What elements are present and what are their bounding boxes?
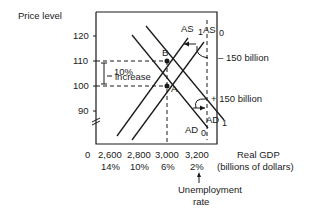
ad-as-diagram: Price level 120 110 100 90 10% increase … xyxy=(0,0,316,213)
x-axis-title: Real GDP xyxy=(237,149,280,160)
as-shift-label: – 150 billion xyxy=(218,52,269,63)
y-tick-90: 90 xyxy=(78,105,89,116)
unemp-tick-6: 6% xyxy=(161,161,175,172)
y-tick-100: 100 xyxy=(73,80,89,91)
as1-curve xyxy=(117,38,188,136)
x-axis-subtitle: (billions of dollars) xyxy=(217,161,294,172)
point-b-label: B xyxy=(162,47,168,58)
as0-subscript: 0 xyxy=(219,28,224,38)
as1-label: AS xyxy=(181,23,194,34)
unemp-tick-10: 10% xyxy=(130,161,150,172)
x-origin-label: 0 xyxy=(85,149,90,160)
increase-word-label: increase xyxy=(115,71,151,82)
unemployment-label-line1: Unemployment xyxy=(178,184,242,195)
y-axis-title: Price level xyxy=(18,10,62,21)
unemp-tick-14: 14% xyxy=(101,161,121,172)
ad-shift-label: + 150 billion xyxy=(211,93,262,104)
ad1-subscript: 1 xyxy=(222,118,227,128)
increase-bracket xyxy=(101,63,112,84)
ad1-label: AD xyxy=(206,114,219,125)
point-a-marker xyxy=(165,84,170,89)
as0-label: AS xyxy=(203,24,216,35)
y-tick-110: 110 xyxy=(73,55,88,66)
ad0-subscript: 0 xyxy=(201,128,206,138)
x-tick-3000: 3,000 xyxy=(155,149,179,160)
x-tick-3200: 3,200 xyxy=(185,149,209,160)
x-tick-2800: 2,800 xyxy=(127,149,151,160)
x-tick-2600: 2,600 xyxy=(98,149,122,160)
point-a-label: A xyxy=(171,83,178,94)
up-arrow-icon xyxy=(197,172,201,183)
y-tick-120: 120 xyxy=(73,30,89,41)
point-b-marker xyxy=(165,59,170,64)
unemployment-label-line2: rate xyxy=(193,196,209,207)
unemp-tick-2: 2% xyxy=(190,161,204,172)
ad0-label: AD xyxy=(185,124,198,135)
